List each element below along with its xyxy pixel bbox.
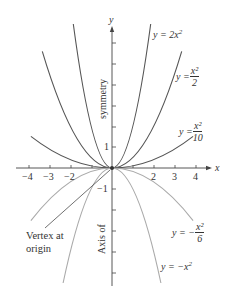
label-y-neg-x2: y = −x2 xyxy=(161,262,192,272)
y-tick-label: −1 xyxy=(97,184,108,194)
x-axis-arrow-icon xyxy=(206,166,212,170)
label-y-2x2: y = 2x2 xyxy=(153,30,182,40)
vertex-label-line1: Vertex at xyxy=(26,231,64,242)
vertex-label-line2: origin xyxy=(26,244,51,255)
label-y-neg-x2-over-6: y = − x²6 xyxy=(172,222,204,244)
label-y-x2-over-10: y = x²10 xyxy=(179,121,203,143)
y-ticks xyxy=(112,43,116,273)
x-axis-label: x xyxy=(215,163,219,173)
y-axis-arrow-icon xyxy=(110,26,114,32)
axis-of-symmetry-label-top: symmetry xyxy=(98,74,108,124)
x-tick-label: −4 xyxy=(22,172,33,182)
x-tick-label: 3 xyxy=(172,172,177,182)
x-tick-label: 2 xyxy=(151,172,156,182)
y-tick-label: 1 xyxy=(104,142,109,152)
x-tick-label: −3 xyxy=(43,172,54,182)
y-axis-label: y xyxy=(109,15,113,25)
label-y-x2-over-2: y = x²2 xyxy=(176,66,199,88)
x-tick-label: −2 xyxy=(64,172,75,182)
x-tick-label: 4 xyxy=(193,172,198,182)
axis-of-symmetry-label-bottom: Axis of xyxy=(97,217,107,261)
vertex-dot-icon xyxy=(110,166,114,170)
